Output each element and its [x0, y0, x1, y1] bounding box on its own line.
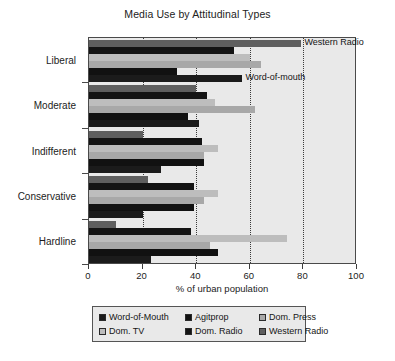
y-tick-label-moderate: Moderate	[34, 100, 76, 111]
x-tick-label-40: 40	[190, 270, 201, 281]
bar-indifferent-word-of-mouth	[89, 166, 161, 173]
y-tick-label-conservative: Conservative	[18, 190, 76, 201]
x-tick-40	[195, 264, 196, 269]
legend-label: Dom. TV	[109, 326, 144, 336]
x-tick-20	[142, 264, 143, 269]
legend-label: Agitprop	[195, 312, 229, 322]
bar-indifferent-western-radio	[89, 131, 143, 138]
bar-indifferent-dom-tv	[89, 145, 218, 152]
bar-indifferent-dom-radio	[89, 138, 202, 145]
bar-liberal-word-of-mouth	[89, 75, 242, 82]
annotation-word-of-mouth: Word-of-mouth	[245, 72, 305, 82]
bar-conservative-word-of-mouth	[89, 211, 143, 218]
bar-conservative-western-radio	[89, 176, 148, 183]
bar-liberal-dom-radio	[89, 47, 234, 54]
bar-liberal-dom-tv	[89, 54, 250, 61]
legend-label: Western Radio	[269, 326, 328, 336]
bar-hardline-word-of-mouth	[89, 256, 151, 263]
legend-swatch-icon	[259, 328, 266, 335]
chart-figure: Media Use by Attitudinal Types LiberalMo…	[0, 0, 395, 361]
x-tick-label-20: 20	[136, 270, 147, 281]
bar-conservative-agitprop	[89, 204, 194, 211]
bar-liberal-agitprop	[89, 68, 177, 75]
bar-liberal-western-radio	[89, 40, 301, 47]
y-tick-label-liberal: Liberal	[46, 54, 76, 65]
legend-swatch-icon	[99, 328, 106, 335]
legend-item-dom-tv[interactable]: Dom. TV	[99, 326, 185, 336]
legend-swatch-icon	[185, 314, 192, 321]
bar-indifferent-agitprop	[89, 159, 204, 166]
legend-item-agitprop[interactable]: Agitprop	[185, 312, 259, 322]
x-tick-0	[88, 264, 89, 269]
legend-item-dom-press[interactable]: Dom. Press	[259, 312, 301, 322]
x-tick-100	[356, 264, 357, 269]
bar-hardline-dom-press	[89, 242, 210, 249]
y-tick-label-hardline: Hardline	[39, 236, 76, 247]
x-tick-80	[302, 264, 303, 269]
bar-moderate-agitprop	[89, 113, 188, 120]
x-tick-label-0: 0	[85, 270, 90, 281]
legend-item-word-of-mouth[interactable]: Word-of-Mouth	[99, 312, 185, 322]
legend-item-western-radio[interactable]: Western Radio	[259, 326, 301, 336]
plot-area	[88, 37, 356, 264]
y-axis: LiberalModerateIndifferentConservativeHa…	[0, 37, 84, 264]
bar-conservative-dom-tv	[89, 190, 218, 197]
y-tick-label-indifferent: Indifferent	[32, 145, 76, 156]
bar-conservative-dom-radio	[89, 183, 194, 190]
x-tick-label-100: 100	[348, 270, 364, 281]
bar-moderate-western-radio	[89, 85, 196, 92]
bar-moderate-word-of-mouth	[89, 120, 199, 127]
legend-label: Dom. Radio	[195, 326, 243, 336]
chart-legend: Word-of-MouthAgitpropDom. PressDom. TVDo…	[92, 306, 306, 342]
legend-label: Dom. Press	[269, 312, 316, 322]
bar-liberal-dom-press	[89, 61, 261, 68]
legend-swatch-icon	[99, 314, 106, 321]
legend-swatch-icon	[185, 328, 192, 335]
legend-row-0: Word-of-MouthAgitpropDom. Press	[99, 310, 301, 324]
bar-hardline-western-radio	[89, 221, 116, 228]
bar-moderate-dom-press	[89, 106, 255, 113]
x-tick-60	[249, 264, 250, 269]
x-tick-label-60: 60	[244, 270, 255, 281]
bar-conservative-dom-press	[89, 197, 204, 204]
bar-moderate-dom-radio	[89, 92, 207, 99]
legend-item-dom-radio[interactable]: Dom. Radio	[185, 326, 259, 336]
bar-hardline-dom-radio	[89, 228, 191, 235]
annotation-western-radio: Western Radio	[304, 37, 363, 47]
bar-moderate-dom-tv	[89, 99, 215, 106]
legend-label: Word-of-Mouth	[109, 312, 169, 322]
x-axis-label: % of urban population	[88, 283, 356, 294]
x-tick-label-80: 80	[297, 270, 308, 281]
legend-row-1: Dom. TVDom. RadioWestern Radio	[99, 324, 301, 338]
legend-swatch-icon	[259, 314, 266, 321]
bar-indifferent-dom-press	[89, 152, 204, 159]
bar-hardline-dom-tv	[89, 235, 287, 242]
chart-title: Media Use by Attitudinal Types	[0, 8, 395, 20]
bar-hardline-agitprop	[89, 249, 218, 256]
